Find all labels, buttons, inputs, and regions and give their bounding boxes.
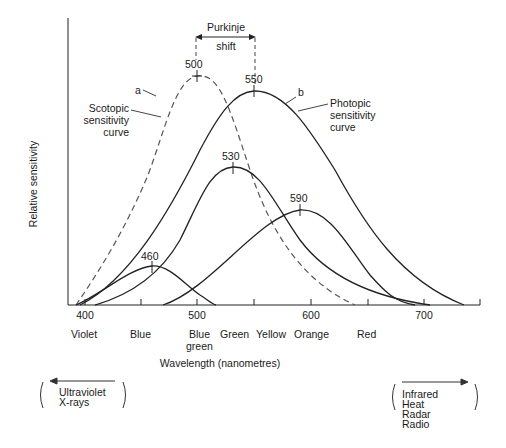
peak-label-550: 550 <box>245 73 263 85</box>
color-violet: Violet <box>71 328 97 340</box>
purkinje-label: Purkinje <box>204 21 248 33</box>
sensitivity-chart <box>0 0 506 448</box>
shift-label: shift <box>204 40 248 52</box>
color-red: Red <box>357 328 376 340</box>
color-blue-green-1: Blue <box>189 328 210 340</box>
x-axis-label: Wavelength (nanometres) <box>150 357 290 369</box>
x-tick-400: 400 <box>70 309 100 321</box>
blue-cone-curve <box>76 266 216 305</box>
color-blue: Blue <box>130 328 151 340</box>
scotopic-label-3: curve <box>85 126 129 138</box>
y-axis-label: Relative sensitivity <box>27 129 39 239</box>
scotopic-label-2: sensitivity <box>75 114 129 126</box>
peak-label-500: 500 <box>185 58 203 70</box>
peak-label-530: 530 <box>222 150 240 162</box>
color-yellow: Yellow <box>256 328 286 340</box>
color-green: Green <box>220 328 249 340</box>
x-tick-600: 600 <box>296 309 326 321</box>
spectrum-left-2: X-rays <box>59 396 89 408</box>
photopic-label-2: sensitivity <box>330 109 376 121</box>
marker-a: a <box>135 84 141 96</box>
peak-label-460: 460 <box>141 250 159 262</box>
peak-label-590: 590 <box>290 192 308 204</box>
green-cone-curve <box>95 167 430 305</box>
photopic-label-1: Photopic <box>330 97 371 109</box>
scotopic-label-1: Scotopic <box>85 102 129 114</box>
peak-ticks <box>152 70 300 273</box>
marker-b: b <box>298 86 304 98</box>
color-blue-green-2: green <box>186 340 213 352</box>
spectrum-right-4: Radio <box>402 418 429 430</box>
x-tick-700: 700 <box>409 309 439 321</box>
photopic-label-3: curve <box>330 121 356 133</box>
x-tick-500: 500 <box>182 309 212 321</box>
color-orange: Orange <box>294 328 329 340</box>
